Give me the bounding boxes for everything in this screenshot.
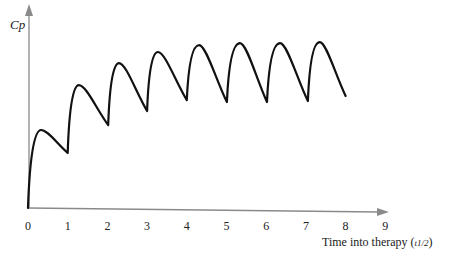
- x-axis-label: Time into therapy (t1/2): [322, 235, 433, 249]
- x-tick-label: 0: [25, 219, 31, 233]
- x-axis-line: [28, 208, 378, 212]
- y-axis-label: Cp: [10, 17, 26, 32]
- x-tick-label: 4: [184, 219, 190, 233]
- x-tick-label: 3: [144, 219, 150, 233]
- x-tick-label: 6: [263, 219, 269, 233]
- x-tick-label: 1: [65, 219, 71, 233]
- x-axis-arrow-icon: [377, 208, 389, 216]
- x-tick-label: 8: [343, 219, 349, 233]
- x-tick-labels: 0123456789: [25, 219, 388, 233]
- x-tick-label: 9: [382, 219, 388, 233]
- x-tick-label: 2: [104, 219, 110, 233]
- x-tick-label: 7: [303, 219, 309, 233]
- x-axis: 0123456789 Time into therapy (t1/2): [25, 208, 433, 249]
- chart-svg: Cp 0123456789 Time into therapy (t1/2): [0, 0, 462, 258]
- y-axis-arrow-icon: [25, 4, 33, 16]
- cp-curve: [28, 42, 346, 208]
- x-tick-label: 5: [224, 219, 230, 233]
